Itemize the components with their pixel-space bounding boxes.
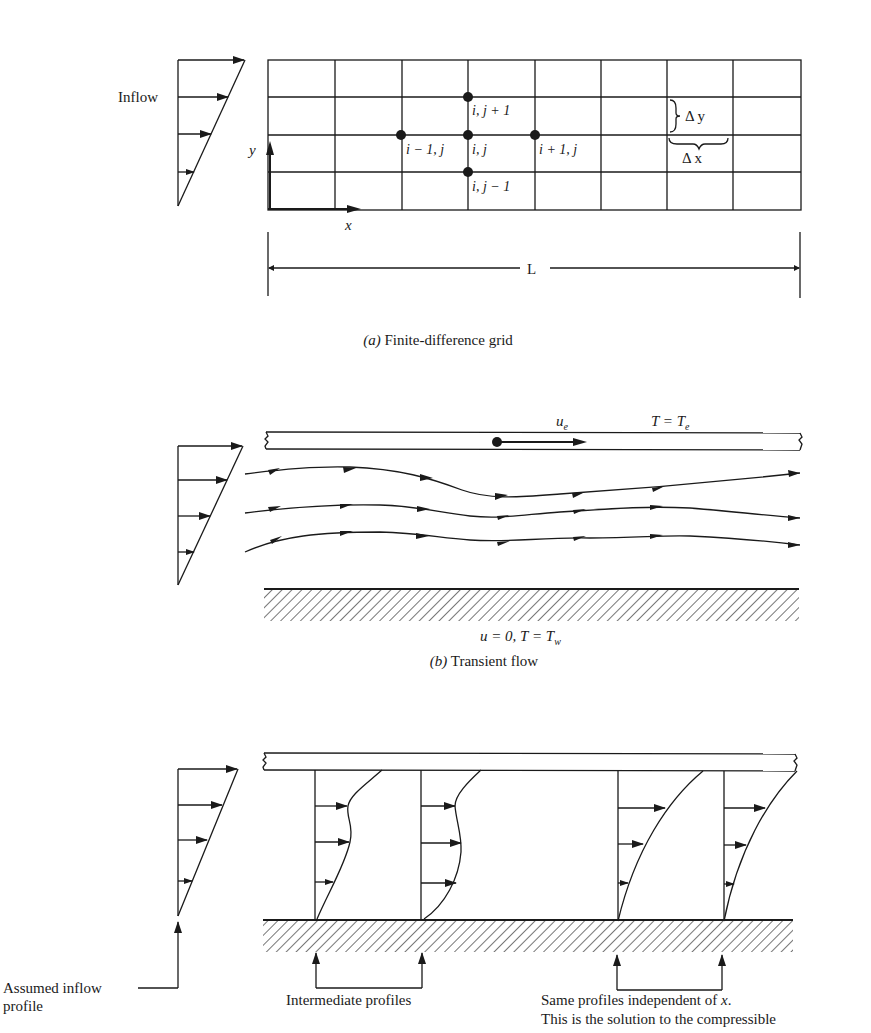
developed-profile-1 bbox=[618, 771, 703, 921]
delta-x-label: Δ x bbox=[682, 150, 703, 166]
delta-y-brace bbox=[670, 100, 680, 132]
length-label: L bbox=[527, 261, 536, 277]
boundary-layer-figure: Inflow y x i − 1, j i, j bbox=[0, 0, 871, 1033]
assumed-inflow-label-line2: profile bbox=[3, 998, 43, 1014]
panel-a-caption: (a) Finite-difference grid bbox=[363, 332, 513, 349]
same-profiles-label-line1: Same profiles independent of x. bbox=[541, 992, 731, 1008]
node-i-plus-1-j bbox=[530, 130, 540, 140]
developed-profile-2 bbox=[724, 771, 797, 921]
inflow-profile-a bbox=[178, 60, 245, 206]
delta-y-label: Δ y bbox=[685, 108, 706, 124]
assumed-inflow-label-line1: Assumed inflow bbox=[3, 980, 102, 996]
edge-temperature-label: T = Te bbox=[651, 413, 690, 432]
streamline-1 bbox=[245, 467, 800, 497]
edge-velocity-label: ue bbox=[556, 413, 569, 432]
assumed-inflow-callout bbox=[138, 922, 178, 988]
intermediate-callout bbox=[316, 953, 422, 988]
node-label-i-plus-1-j: i + 1, j bbox=[539, 142, 577, 157]
x-axis-label: x bbox=[344, 217, 352, 233]
node-label-i-j: i, j bbox=[472, 142, 487, 157]
panel-a-finite-difference-grid: Inflow y x i − 1, j i, j bbox=[118, 60, 801, 349]
streamlines bbox=[245, 467, 800, 552]
node-i-j bbox=[463, 130, 473, 140]
intermediate-profile-1 bbox=[315, 770, 382, 919]
wall-b bbox=[264, 589, 799, 621]
y-axis-label: y bbox=[247, 142, 256, 158]
panel-c-profiles: Assumed inflow profile Intermediate prof… bbox=[3, 753, 797, 1027]
upper-plate-c bbox=[263, 753, 797, 771]
node-i-minus-1-j bbox=[396, 130, 406, 140]
node-i-j-plus-1 bbox=[463, 92, 473, 102]
intermediate-profiles-label: Intermediate profiles bbox=[286, 992, 412, 1008]
node-label-i-minus-1-j: i − 1, j bbox=[406, 142, 444, 157]
same-profiles-label-line2: This is the solution to the compressible bbox=[541, 1011, 776, 1027]
panel-b-caption: (b) Transient flow bbox=[430, 653, 539, 670]
node-i-j-minus-1 bbox=[463, 167, 473, 177]
same-profiles-callout bbox=[617, 955, 722, 990]
streamline-2 bbox=[245, 505, 800, 518]
wall-condition-label: u = 0, T = Tw bbox=[480, 628, 561, 647]
node-label-i-j-minus-1: i, j − 1 bbox=[472, 179, 510, 194]
inflow-profile-c bbox=[178, 769, 238, 916]
inflow-profile-b bbox=[178, 446, 243, 585]
inflow-label: Inflow bbox=[118, 89, 158, 105]
wall-c bbox=[263, 920, 793, 952]
delta-x-brace bbox=[669, 138, 728, 149]
intermediate-profile-2 bbox=[421, 770, 481, 919]
node-label-i-j-plus-1: i, j + 1 bbox=[472, 103, 510, 118]
streamline-3 bbox=[245, 532, 800, 552]
panel-b-transient-flow: ue T = Te bbox=[178, 413, 802, 670]
